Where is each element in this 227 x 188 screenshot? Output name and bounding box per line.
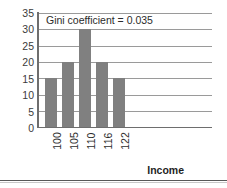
y-tick-label: 35: [4, 8, 34, 18]
y-tick-label: 5: [4, 107, 34, 117]
x-tick-label: 122: [119, 132, 131, 150]
bar-116: [96, 62, 108, 127]
bar-122: [113, 78, 125, 127]
y-tick-label: 0: [4, 123, 34, 133]
x-axis-title: Income: [0, 164, 184, 176]
y-tick-label: 25: [4, 41, 34, 51]
x-tick-100: 100: [45, 129, 57, 159]
footer-divider: [0, 180, 227, 181]
bar-series: [39, 13, 213, 127]
x-tick-122: 122: [113, 129, 125, 159]
bar-105: [62, 62, 74, 127]
y-tick-label: 10: [4, 90, 34, 100]
y-tick-label: 20: [4, 57, 34, 67]
gini-annotation: Gini coefficient = 0.035: [46, 14, 153, 26]
x-tick-105: 105: [62, 129, 74, 159]
x-tick-116: 116: [96, 129, 108, 159]
x-axis-tick-labels: 100 105 110 116 122: [39, 129, 213, 161]
y-axis-tick-labels: 35 30 25 20 15 10 5 0: [0, 0, 34, 188]
bar-100: [45, 78, 57, 127]
y-tick-label: 15: [4, 74, 34, 84]
gridline-0-baseline: [38, 127, 212, 128]
bar-110: [79, 29, 91, 127]
footer-divider-shadow: [0, 182, 227, 183]
x-tick-110: 110: [79, 129, 91, 159]
y-tick-label: 30: [4, 24, 34, 34]
chart-figure: 35 30 25 20 15 10 5 0 Gini coefficient =…: [0, 0, 227, 188]
